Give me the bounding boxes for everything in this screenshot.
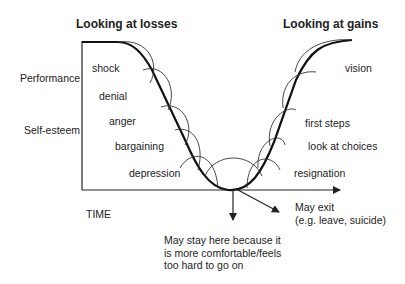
stage-anger: anger [109, 115, 136, 127]
stage-vision: vision [345, 62, 372, 74]
gains-header: Looking at gains [283, 17, 378, 31]
losses-header: Looking at losses [76, 17, 177, 31]
stage-shock: shock [92, 62, 119, 74]
stay-note-line-2: is more comfortable/feels [164, 247, 281, 260]
exit-arrow [238, 190, 279, 212]
exit-note: May exit (e.g. leave, suicide) [295, 201, 386, 226]
exit-note-line-1: May exit [295, 201, 386, 214]
y-label-self-esteem: Self-esteem [24, 124, 80, 136]
stage-depression: depression [129, 167, 180, 179]
stage-first-steps: first steps [305, 117, 350, 129]
y-label-performance: Performance [20, 72, 80, 84]
stay-note-line-3: too hard to go on [164, 259, 281, 272]
stage-bargaining: bargaining [115, 140, 164, 152]
stay-note-line-1: May stay here because it [164, 234, 281, 247]
x-label-time: TIME [86, 208, 111, 220]
stage-resignation: resignation [294, 167, 345, 179]
stage-look-at-choices: look at choices [308, 140, 377, 152]
stay-note: May stay here because it is more comfort… [164, 234, 281, 272]
stage-denial: denial [99, 90, 127, 102]
exit-note-line-2: (e.g. leave, suicide) [295, 214, 386, 227]
